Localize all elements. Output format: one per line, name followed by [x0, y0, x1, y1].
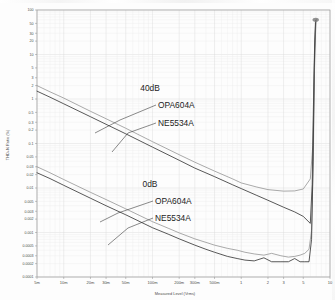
x-tick-label: 50m [122, 280, 130, 285]
x-tick-label: 200m [174, 280, 185, 285]
clipping-marker [312, 18, 318, 22]
y-tick-label: 30 [30, 32, 34, 36]
y-tick-label: 0.01 [27, 186, 34, 190]
curve-ne5534a-0db [37, 23, 315, 262]
annotation-ne5534a-40db: NE5534A [158, 118, 194, 128]
y-tick-label: 0.0005 [23, 244, 34, 248]
thd-vs-level-chart: 1005030201053210.50.30.20.10.050.030.020… [0, 0, 335, 300]
x-tick-label: 500m [210, 280, 221, 285]
y-tick-label: 0.0003 [23, 254, 34, 258]
x-tick-label: 20m [87, 280, 95, 285]
x-tick-label: 3 [282, 280, 285, 285]
figure-container: 1005030201053210.50.30.20.10.050.030.020… [0, 0, 335, 300]
annotation-leader-line [108, 218, 153, 245]
x-tick-label: 10 [328, 280, 333, 285]
y-tick-label: 0.3 [29, 121, 34, 125]
y-tick-label: 0.02 [27, 173, 34, 177]
y-tick-label: 1 [32, 97, 34, 101]
grid-layer [37, 10, 330, 277]
x-tick-label: 30m [102, 280, 110, 285]
chart-plot-area: 1005030201053210.50.30.20.10.050.030.020… [0, 0, 335, 300]
x-tick-label: 5 [302, 280, 305, 285]
annotation-opa604a-0db: OPA604A [155, 196, 192, 206]
annotation-leader-line [100, 201, 153, 222]
y-tick-label: 5 [32, 66, 34, 70]
y-tick-label: 0.0002 [23, 262, 34, 266]
y-tick-label: 0.0001 [23, 275, 34, 279]
y-tick-label: 0.003 [25, 210, 34, 214]
annotation-opa604a-40db: OPA604A [158, 100, 195, 110]
y-tick-label: 0.2 [29, 128, 34, 132]
annotation-leader-line [95, 105, 156, 133]
y-tick-label: 0.03 [27, 165, 34, 169]
y-tick-label: 100 [28, 8, 34, 12]
y-tick-label: 20 [30, 39, 34, 43]
x-tick-label: 1 [240, 280, 243, 285]
x-tick-label: 2 [267, 280, 270, 285]
y-tick-label: 10 [30, 53, 34, 57]
y-tick-label: 0.5 [29, 111, 34, 115]
y-tick-label: 0.001 [25, 231, 34, 235]
y-tick-label: 3 [32, 76, 34, 80]
x-tick-label: 5m [34, 280, 40, 285]
annotation-gain-0db: 0dB [143, 179, 158, 189]
x-tick-label: 10m [60, 280, 68, 285]
y-tick-label: 50 [30, 22, 34, 26]
annotation-leader-lines [95, 105, 156, 245]
y-axis-tick-labels: 1005030201053210.50.30.20.10.050.030.020… [23, 8, 38, 279]
y-tick-label: 0.002 [25, 217, 34, 221]
y-tick-label: 2 [32, 84, 34, 88]
y-tick-label: 0.05 [27, 155, 34, 159]
x-tick-label: 300m [190, 280, 201, 285]
y-tick-label: 0.1 [29, 142, 34, 146]
y-axis-title: THD+N Ratio (%) [5, 129, 10, 160]
x-axis-title: Measured Level (Vrms) [155, 291, 196, 296]
annotation-ne5534a-0db: NE5534A [155, 213, 191, 223]
y-tick-label: 0.005 [25, 200, 34, 204]
x-axis-tick-labels: 5m10m20m30m50m100m200m300m500m123510 [34, 277, 333, 285]
annotation-gain-40db: 40dB [140, 83, 160, 93]
x-tick-label: 100m [147, 280, 158, 285]
